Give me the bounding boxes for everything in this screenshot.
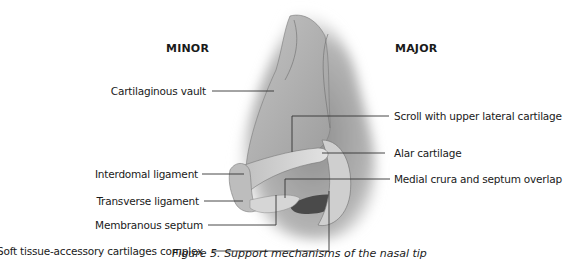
nasal-tip-support-figure: MINOR MAJOR Cartilaginous vault Interdom… (0, 0, 564, 264)
figure-caption: Figure 5. Support mechanisms of the nasa… (172, 247, 427, 260)
label-transverse-ligament: Transverse ligament (96, 195, 199, 207)
label-alar-cartilage: Alar cartilage (394, 147, 461, 159)
label-cartilaginous-vault: Cartilaginous vault (111, 85, 206, 97)
label-medial-crura-septum-overlap: Medial crura and septum overlap (394, 173, 562, 185)
label-membranous-septum: Membranous septum (95, 219, 203, 231)
label-interdomal-ligament: Interdomal ligament (95, 168, 198, 180)
caption-number: Figure 5. (172, 247, 221, 260)
caption-text: Support mechanisms of the nasal tip (224, 247, 427, 260)
label-scroll-upper-lateral: Scroll with upper lateral cartilage (394, 110, 562, 122)
heading-major: MAJOR (395, 42, 437, 55)
nose-illustration (0, 0, 564, 264)
heading-minor: MINOR (166, 42, 209, 55)
